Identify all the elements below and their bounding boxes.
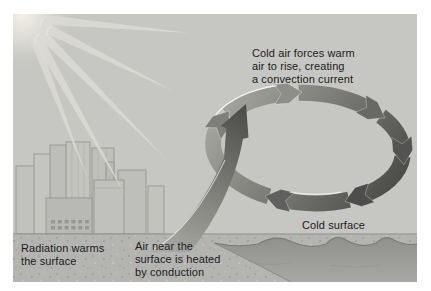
label-line: surface is heated bbox=[135, 253, 220, 266]
label-line: air to rise, creating bbox=[252, 60, 355, 73]
convection-label: Cold air forces warm air to rise, creati… bbox=[252, 47, 355, 86]
label-line: Air near the bbox=[135, 240, 220, 253]
label-line: Cold air forces warm bbox=[252, 47, 355, 60]
label-line: the surface bbox=[21, 255, 104, 268]
conduction-label: Air near the surface is heated by conduc… bbox=[135, 240, 220, 279]
label-line: by conduction bbox=[135, 266, 220, 279]
label-line: a convection current bbox=[252, 73, 355, 86]
label-line: Radiation warms bbox=[21, 242, 104, 255]
building bbox=[148, 186, 164, 234]
label-line: Cold surface bbox=[302, 219, 365, 232]
cold-surface-label: Cold surface bbox=[302, 219, 365, 232]
convection-diagram-figure: Cold air forces warm air to rise, creati… bbox=[0, 0, 431, 291]
radiation-label: Radiation warms the surface bbox=[21, 242, 104, 268]
